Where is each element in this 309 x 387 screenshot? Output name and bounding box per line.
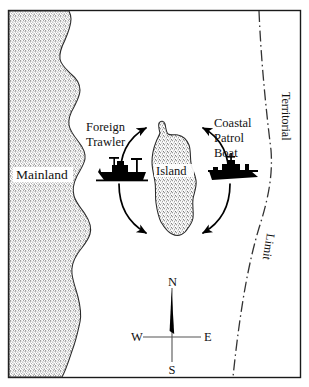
patrol-stern-house [245,164,249,171]
mainland-label: Mainland [16,167,68,182]
trawler-deckhouse [112,165,128,173]
territorial-label: Territorial [279,92,293,141]
compass-label-east: E [204,330,212,344]
foreign-trawler-label-group: Foreign Trawler [86,120,126,149]
patrol-superstructure [222,164,240,171]
island-label: Island [156,164,187,178]
compass-label-north: N [168,275,177,289]
foreign-trawler-label-line1: Foreign [86,120,126,134]
patrol-label-line1: Coastal [214,116,252,130]
trawler-derrick-post [136,158,138,172]
foreign-trawler-label-line2: Trawler [86,135,126,149]
patrol-foredeck-fitting [213,167,218,171]
trawler-wheelhouse [117,161,124,166]
island-label-group: Island [154,164,194,178]
boundary-label-territorial-group: Territorial [277,86,293,160]
patrol-label-line3: Boat [214,146,238,160]
compass-label-south: S [169,363,176,377]
maritime-map-figure: Mainland Island F [0,0,309,387]
compass-label-west: W [131,330,143,344]
map-canvas: Mainland Island F [0,0,309,387]
trawler-waterline [96,180,148,182]
trawler-hull [98,172,146,180]
mainland-label-group: Mainland [13,167,73,182]
patrol-label-line2: Patrol [214,131,244,145]
trawler-forward-yard [109,157,119,159]
trawler-derrick-arm [131,158,142,160]
